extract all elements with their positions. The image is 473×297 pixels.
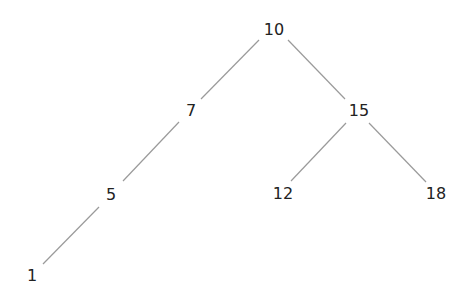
node-18: 18 <box>426 186 446 202</box>
edge-7-5 <box>123 122 179 181</box>
edge-5-1 <box>43 207 99 264</box>
tree-diagram: 10 7 15 5 12 18 1 <box>0 0 473 297</box>
node-1: 1 <box>27 268 37 284</box>
edge-15-12 <box>291 123 346 181</box>
edge-15-18 <box>369 123 426 182</box>
edge-10-15 <box>288 40 345 99</box>
node-5: 5 <box>106 187 116 203</box>
node-15: 15 <box>349 103 369 119</box>
edge-10-7 <box>201 40 259 99</box>
node-12: 12 <box>273 186 293 202</box>
node-10: 10 <box>264 22 284 38</box>
tree-edges <box>0 0 473 297</box>
node-7: 7 <box>186 103 196 119</box>
